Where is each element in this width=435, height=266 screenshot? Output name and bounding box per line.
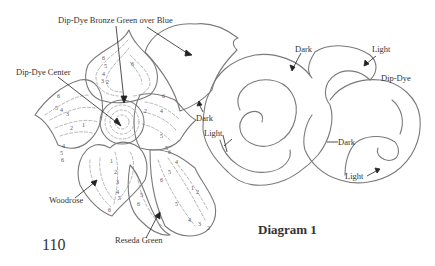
- label-light-scroll-top: Light: [372, 45, 390, 54]
- label-dark-leaf: Dark: [196, 114, 213, 123]
- svg-text:2: 2: [114, 169, 117, 175]
- label-bronze-green: Dip-Dye Bronze Green over Blue: [58, 16, 173, 25]
- svg-text:1: 1: [110, 158, 113, 164]
- svg-text:6: 6: [102, 55, 105, 61]
- svg-text:4: 4: [102, 71, 105, 77]
- label-woodrose: Woodrose: [49, 196, 83, 205]
- svg-text:4: 4: [160, 108, 163, 114]
- svg-text:2: 2: [207, 225, 210, 231]
- svg-text:6: 6: [131, 61, 134, 67]
- svg-text:5: 5: [118, 195, 121, 201]
- page-number: 110: [42, 236, 65, 254]
- svg-text:1: 1: [82, 122, 85, 128]
- svg-text:4: 4: [175, 159, 178, 165]
- right-scroll-curl: [392, 100, 402, 134]
- lower-leaf-left: [128, 165, 170, 235]
- right-scroll: [304, 80, 420, 183]
- svg-text:5: 5: [140, 192, 143, 198]
- svg-text:2: 2: [106, 79, 109, 85]
- svg-text:3: 3: [66, 111, 69, 117]
- svg-text:6: 6: [160, 177, 163, 183]
- svg-text:5: 5: [104, 63, 107, 69]
- middle-scroll: [203, 46, 376, 185]
- svg-text:5: 5: [175, 201, 178, 207]
- right-petal: [134, 94, 196, 150]
- label-reseda-green: Reseda Green: [115, 236, 162, 245]
- svg-text:6: 6: [168, 149, 171, 155]
- svg-text:6: 6: [137, 201, 140, 207]
- svg-text:2: 2: [70, 125, 73, 131]
- svg-text:6: 6: [162, 93, 165, 99]
- svg-text:6: 6: [61, 157, 64, 163]
- svg-text:1: 1: [191, 185, 194, 191]
- svg-text:6: 6: [108, 207, 111, 213]
- label-dip-dye: Dip-Dye: [381, 74, 411, 83]
- svg-text:6: 6: [57, 93, 60, 99]
- svg-text:3: 3: [101, 78, 104, 84]
- svg-text:5: 5: [60, 150, 63, 156]
- svg-text:5: 5: [160, 133, 163, 139]
- svg-text:4: 4: [60, 107, 63, 113]
- svg-text:5: 5: [168, 169, 171, 175]
- label-light-scroll-right: Light: [345, 172, 363, 181]
- label-dark-scroll-right: Dark: [338, 138, 355, 147]
- svg-text:3: 3: [116, 179, 119, 185]
- middle-scroll-inner: [238, 80, 296, 146]
- svg-text:2: 2: [144, 108, 147, 114]
- lower-leaf-right: [150, 150, 216, 236]
- diagram-title: Diagram 1: [258, 222, 317, 238]
- large-leaf-shape: [145, 24, 238, 111]
- label-dip-dye-center: Dip-Dye Center: [16, 68, 71, 77]
- svg-text:4: 4: [188, 217, 191, 223]
- svg-text:3: 3: [198, 221, 201, 227]
- label-dark-scroll-top: Dark: [295, 45, 312, 54]
- svg-text:2: 2: [196, 189, 199, 195]
- svg-text:5: 5: [55, 105, 58, 111]
- center-circle: [100, 100, 144, 144]
- label-light-scroll-left: Light: [204, 129, 222, 138]
- svg-text:4: 4: [62, 143, 65, 149]
